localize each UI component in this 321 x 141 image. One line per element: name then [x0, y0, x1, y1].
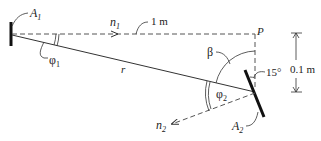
radiation-view-factor-diagram: A1 n1 1 m P φ1 r β 15° φ2 n2 A2 0.1 m: [0, 0, 321, 141]
label-phi2: φ2: [216, 87, 227, 103]
label-r: r: [121, 63, 126, 75]
label-a1: A1: [29, 6, 41, 22]
angle15-leader: [254, 72, 265, 77]
label-beta: β: [207, 45, 213, 59]
a2-leader: [246, 112, 258, 126]
phi1-arc: [54, 34, 56, 45]
distance-1m-leader: [136, 22, 148, 34]
angle15-arc: [250, 77, 255, 78]
dashed-line-n2: [172, 93, 255, 124]
label-a2: A2: [231, 119, 243, 135]
phi1-leader: [40, 42, 48, 58]
phi2-arc: [208, 82, 211, 109]
label-p: P: [256, 25, 264, 37]
label-n2: n2: [156, 118, 166, 134]
label-distance-0-1m: 0.1 m: [290, 63, 316, 75]
label-distance-1m: 1 m: [151, 15, 168, 27]
phi1-arc-2: [57, 34, 59, 46]
label-n1: n1: [110, 15, 120, 31]
a1-leader: [12, 13, 28, 26]
label-phi1: φ1: [49, 53, 60, 69]
label-angle15: 15°: [266, 66, 281, 78]
